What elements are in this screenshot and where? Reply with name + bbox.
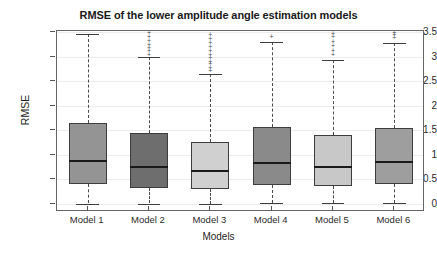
- y-axis-tick-mark: [50, 154, 55, 155]
- y-axis-tick-mark: [50, 56, 55, 57]
- x-axis-tick-label: Model 3: [174, 214, 244, 225]
- whisker-upper: [394, 43, 395, 128]
- x-axis-title: Models: [0, 231, 437, 242]
- whisker-cap-lower: [383, 203, 406, 204]
- y-axis-title: RMSE: [19, 65, 31, 155]
- box-plot: +++: [57, 31, 423, 210]
- x-axis-tick-mark: [393, 206, 394, 211]
- y-axis-tick-mark: [50, 129, 55, 130]
- plot-area: ++++++++++++++++++++++++++++: [56, 30, 424, 211]
- x-axis-tick-mark: [332, 206, 333, 211]
- y-axis-tick-mark: [50, 80, 55, 81]
- y-axis-tick-mark: [50, 31, 55, 32]
- median-line: [375, 161, 413, 163]
- x-axis-tick-label: Model 2: [113, 214, 183, 225]
- y-axis-tick-mark: [50, 178, 55, 179]
- y-axis-tick-mark: [50, 203, 55, 204]
- x-axis-tick-label: Model 5: [297, 214, 367, 225]
- chart-title: RMSE of the lower amplitude angle estima…: [0, 9, 437, 21]
- outlier-marker: +: [392, 30, 396, 36]
- y-axis-tick-mark: [50, 105, 55, 106]
- x-axis-tick-mark: [209, 206, 210, 211]
- x-axis-tick-label: Model 1: [52, 214, 122, 225]
- x-axis-tick-mark: [148, 206, 149, 211]
- whisker-cap-upper: [383, 43, 406, 44]
- x-axis-tick-label: Model 6: [358, 214, 428, 225]
- x-axis-tick-mark: [271, 206, 272, 211]
- box-iqr: [375, 128, 413, 185]
- x-axis-tick-mark: [87, 206, 88, 211]
- figure-canvas: RMSE of the lower amplitude angle estima…: [0, 0, 437, 253]
- whisker-lower: [394, 184, 395, 203]
- x-axis-tick-label: Model 4: [236, 214, 306, 225]
